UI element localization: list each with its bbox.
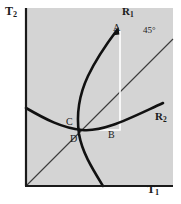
degree-symbol: °: [152, 25, 156, 35]
point-label-b: B: [108, 130, 115, 140]
x-axis-label: T1: [147, 183, 159, 197]
diagonal-45-value: 45: [143, 25, 152, 35]
point-label-a: A: [113, 23, 120, 33]
curve-label-r1: R1: [122, 6, 134, 18]
y-axis-label: T2: [5, 5, 17, 19]
curve-label-r2-text: R: [155, 110, 163, 122]
x-axis-label-sub: 1: [155, 188, 159, 197]
curve-label-r2-sub: 2: [163, 115, 167, 124]
curve-label-r2: R2: [155, 111, 167, 123]
y-axis-label-text: T: [5, 4, 13, 18]
x-axis-label-text: T: [147, 182, 155, 196]
curve-label-r1-sub: 1: [130, 10, 134, 19]
diagonal-45-label: 45°: [143, 26, 156, 35]
point-label-c: C: [66, 117, 73, 127]
curve-label-r1-text: R: [122, 5, 130, 17]
point-label-d: D: [70, 134, 77, 144]
figure-canvas: T2 T1 R1 R2 A B C D 45°: [0, 0, 181, 204]
y-axis-label-sub: 2: [13, 10, 17, 19]
